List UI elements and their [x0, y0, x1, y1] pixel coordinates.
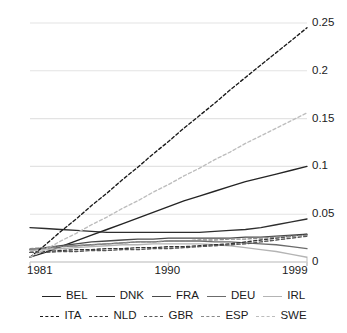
- series-line-dnk: [30, 219, 307, 232]
- legend-label-esp: ESP: [225, 310, 248, 322]
- legend-label-ita: ITA: [64, 310, 81, 322]
- legend-label-fra: FRA: [176, 290, 199, 302]
- gridlines-group: [30, 23, 307, 214]
- legend-item-bel[interactable]: BEL: [42, 290, 88, 302]
- series-lines-group: [30, 28, 307, 257]
- legend-row-dashed: ITANLDGBRESPSWE: [0, 306, 347, 326]
- y-tick-label-0.05: 0.05: [312, 208, 334, 220]
- legend-item-deu[interactable]: DEU: [207, 290, 255, 302]
- y-tick-label-0.15: 0.15: [312, 113, 334, 125]
- legend-item-fra[interactable]: FRA: [152, 290, 199, 302]
- plot-area: [0, 0, 347, 285]
- legend-label-nld: NLD: [113, 310, 136, 322]
- series-line-ita: [30, 28, 307, 257]
- legend-label-gbr: GBR: [168, 310, 193, 322]
- series-line-swe: [30, 113, 307, 257]
- legend-swatch-irl: [263, 296, 282, 297]
- x-tick-label-1999: 1999: [282, 265, 308, 277]
- y-tick-label-0.2: 0.2: [312, 65, 328, 77]
- legend-item-gbr[interactable]: GBR: [144, 310, 193, 322]
- plot-svg: [0, 0, 347, 285]
- legend-item-dnk[interactable]: DNK: [96, 290, 144, 302]
- y-tick-label-0.25: 0.25: [312, 17, 334, 29]
- legend-label-irl: IRL: [287, 290, 305, 302]
- legend-swatch-ita: [40, 316, 59, 317]
- legend-label-bel: BEL: [66, 290, 88, 302]
- legend-item-irl[interactable]: IRL: [263, 290, 305, 302]
- y-tick-label-0.1: 0.1: [312, 160, 328, 172]
- legend-label-dnk: DNK: [120, 290, 144, 302]
- legend-swatch-esp: [201, 316, 220, 317]
- line-chart: 00.050.10.150.20.25 198119901999 BELDNKF…: [0, 0, 347, 333]
- legend-item-nld[interactable]: NLD: [89, 310, 136, 322]
- legend-label-swe: SWE: [280, 310, 306, 322]
- y-tick-label-0: 0: [312, 256, 318, 268]
- legend-swatch-fra: [152, 296, 171, 297]
- x-tick-label-1981: 1981: [27, 265, 53, 277]
- legend-swatch-bel: [42, 296, 61, 297]
- legend-label-deu: DEU: [231, 290, 255, 302]
- legend-item-ita[interactable]: ITA: [40, 310, 81, 322]
- legend-row-solid: BELDNKFRADEUIRL: [0, 286, 347, 306]
- legend-swatch-dnk: [96, 296, 115, 297]
- legend-item-esp[interactable]: ESP: [201, 310, 248, 322]
- legend-swatch-swe: [256, 316, 275, 317]
- legend-swatch-deu: [207, 296, 226, 297]
- legend-item-swe[interactable]: SWE: [256, 310, 306, 322]
- legend-swatch-nld: [89, 316, 108, 317]
- chart-legend: BELDNKFRADEUIRL ITANLDGBRESPSWE: [0, 286, 347, 333]
- legend-swatch-gbr: [144, 316, 163, 317]
- x-tick-label-1990: 1990: [155, 265, 181, 277]
